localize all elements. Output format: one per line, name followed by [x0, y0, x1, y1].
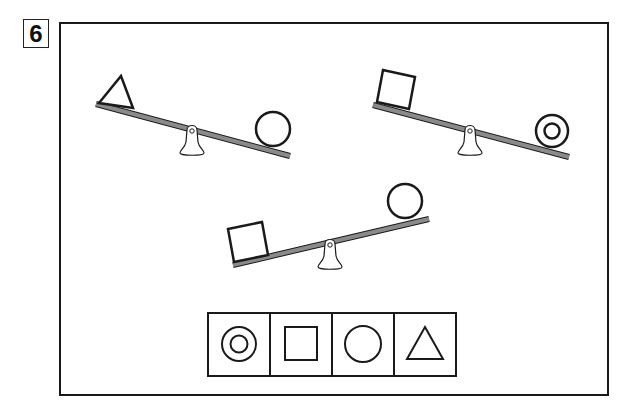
- seesaw-scene: [0, 0, 627, 410]
- choice-square[interactable]: [271, 314, 331, 375]
- square-weight: [228, 222, 268, 262]
- seesaw-1: [96, 76, 290, 156]
- circle-weight: [256, 112, 290, 146]
- seesaw-2: [373, 70, 569, 157]
- seesaw-3: [228, 184, 429, 269]
- square-weight: [377, 70, 415, 109]
- choice-circle[interactable]: [333, 314, 393, 375]
- choice-double-circle[interactable]: [209, 314, 269, 375]
- choice-triangle[interactable]: [395, 314, 455, 375]
- double-circle-weight: [536, 115, 568, 147]
- circle-weight: [388, 184, 422, 218]
- answer-choices: [208, 313, 456, 376]
- triangle-weight: [99, 76, 133, 108]
